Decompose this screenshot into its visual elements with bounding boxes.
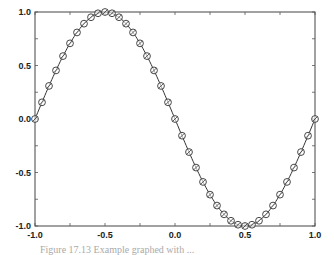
data-point-marker: [235, 221, 242, 228]
x-tick-label: 1.0: [309, 230, 322, 240]
data-point-marker: [214, 202, 221, 209]
data-point-marker: [95, 10, 102, 17]
data-point-marker: [144, 53, 151, 60]
y-tick-label: 0.0: [18, 114, 31, 124]
data-point-marker: [60, 53, 67, 60]
data-point-marker: [256, 217, 263, 224]
data-point-marker: [270, 202, 277, 209]
x-tick-label: -1.0: [27, 230, 43, 240]
data-point-markers: [32, 9, 319, 230]
data-point-marker: [151, 67, 158, 74]
data-point-marker: [158, 83, 165, 90]
data-point-marker: [109, 10, 116, 17]
x-tick-label: 0.0: [169, 230, 182, 240]
data-point-marker: [207, 191, 214, 198]
data-point-marker: [123, 20, 130, 27]
x-tick-label: -0.5: [97, 230, 113, 240]
data-point-marker: [165, 99, 172, 106]
data-point-marker: [137, 40, 144, 47]
x-tick-label: 0.5: [239, 230, 252, 240]
figure-caption: Figure 17.13 Example graphed with ...: [40, 244, 194, 255]
data-point-marker: [221, 211, 228, 218]
data-point-marker: [81, 20, 88, 27]
data-point-marker: [74, 29, 81, 36]
data-point-marker: [291, 164, 298, 171]
data-point-marker: [53, 67, 60, 74]
data-point-marker: [172, 116, 179, 123]
data-point-marker: [249, 221, 256, 228]
data-point-marker: [130, 29, 137, 36]
y-axis-tick-labels: 1.00.50.0-0.5-1.0: [15, 7, 31, 231]
data-point-marker: [284, 179, 291, 186]
data-point-marker: [263, 211, 270, 218]
data-point-marker: [116, 14, 123, 21]
y-tick-label: 1.0: [18, 7, 31, 17]
data-point-marker: [186, 149, 193, 156]
data-point-marker: [242, 223, 249, 230]
data-point-marker: [200, 179, 207, 186]
data-point-marker: [32, 116, 39, 123]
y-tick-label: 0.5: [18, 61, 31, 71]
data-point-marker: [88, 14, 95, 21]
data-point-marker: [102, 9, 109, 16]
data-point-marker: [67, 40, 74, 47]
data-point-marker: [46, 83, 53, 90]
data-point-marker: [228, 217, 235, 224]
data-point-marker: [305, 132, 312, 139]
data-point-marker: [193, 164, 200, 171]
y-tick-label: -0.5: [15, 168, 31, 178]
data-point-marker: [277, 191, 284, 198]
x-axis-tick-labels: -1.0-0.50.00.51.0: [27, 230, 321, 240]
data-point-marker: [179, 132, 186, 139]
data-point-marker: [39, 99, 46, 106]
data-point-marker: [298, 149, 305, 156]
data-point-marker: [312, 116, 319, 123]
